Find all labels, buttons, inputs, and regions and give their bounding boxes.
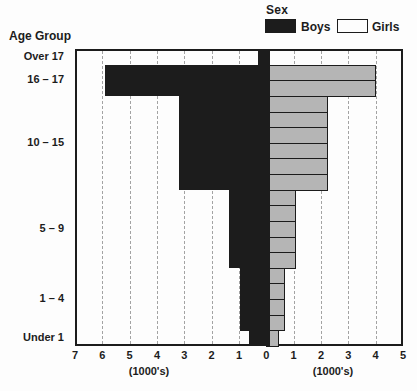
boys-bar [240, 283, 266, 299]
boys-bar [179, 127, 266, 143]
girls-bar [266, 205, 296, 222]
age-group-label: 5 – 9 [0, 222, 64, 234]
girls-bar [266, 221, 296, 238]
boys-bar [179, 143, 266, 159]
boys-bar [240, 299, 266, 315]
population-pyramid-chart: Sex Boys Girls Age Group Over 1716 – 171… [0, 0, 417, 391]
girls-bar [266, 80, 375, 97]
age-group-label: 1 – 4 [0, 292, 64, 304]
boys-bar [229, 190, 266, 206]
girls-bar [266, 237, 296, 254]
girls-bar [266, 158, 328, 175]
boys-bar [105, 80, 266, 96]
boys-bar [229, 252, 266, 268]
x-tick-label: 1 [283, 349, 305, 361]
x-tick-label: 3 [173, 349, 195, 361]
x-tick-label: 5 [119, 349, 141, 361]
zero-axis-strip [265, 49, 270, 346]
x-tick-label: 4 [146, 349, 168, 361]
boys-bar [179, 174, 266, 190]
x-tick-label: 4 [365, 349, 387, 361]
age-group-label: Over 17 [0, 50, 64, 62]
boys-bar [229, 205, 266, 221]
boys-bar [240, 268, 266, 284]
x-tick-label: 7 [64, 349, 86, 361]
gridline [376, 51, 377, 344]
boys-bar [249, 330, 267, 346]
right-unit-label: (1000's) [298, 365, 368, 377]
boys-bar [179, 158, 266, 174]
gridline [102, 51, 103, 344]
girls-bar [266, 96, 328, 113]
x-tick-label: 2 [310, 349, 332, 361]
x-tick-label: 0 [255, 349, 277, 361]
age-group-label: 10 – 15 [0, 136, 64, 148]
girls-bar [266, 112, 328, 129]
boys-bar [179, 96, 266, 112]
girls-bar [266, 174, 328, 191]
girls-bar [266, 252, 296, 269]
x-tick-label: 1 [228, 349, 250, 361]
girls-bar [266, 65, 375, 82]
boys-bar [240, 315, 266, 331]
boys-bar [229, 221, 266, 237]
x-tick-label: 5 [392, 349, 414, 361]
chart-layers: Over 1716 – 1710 – 155 – 91 – 4Under 176… [0, 0, 417, 391]
x-tick-label: 6 [91, 349, 113, 361]
girls-bar [266, 127, 328, 144]
left-unit-label: (1000's) [114, 365, 184, 377]
x-tick-label: 3 [337, 349, 359, 361]
age-group-label: Under 1 [0, 331, 64, 343]
boys-bar [105, 65, 266, 81]
girls-bar [266, 190, 296, 207]
age-group-label: 16 – 17 [0, 73, 64, 85]
x-tick-label: 2 [201, 349, 223, 361]
girls-bar [266, 143, 328, 160]
boys-bar [179, 112, 266, 128]
boys-bar [229, 237, 266, 253]
